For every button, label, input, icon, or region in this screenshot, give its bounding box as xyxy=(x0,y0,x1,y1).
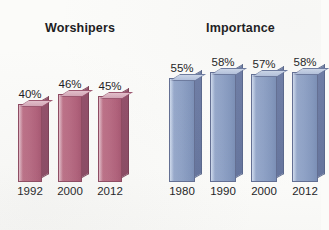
bar-value-importance-1980: 55% xyxy=(164,62,200,74)
bar-importance-2012 xyxy=(292,72,318,182)
chart-panel-worshipers: Worshipers 40% 1992 46% 2000 xyxy=(0,0,160,230)
bar-worshipers-2012 xyxy=(98,96,122,182)
chart-panel-importance: Importance 55% 1980 58% 1990 xyxy=(160,0,321,230)
bar-label-importance-2012: 2012 xyxy=(286,185,324,197)
bar-front-face xyxy=(58,94,82,182)
plot-area-importance: 55% 1980 58% 1990 57% 2000 xyxy=(160,0,321,230)
bar-value-importance-2012: 58% xyxy=(287,56,323,68)
bar-side-face xyxy=(122,88,129,178)
bar-side-face xyxy=(195,70,202,178)
bar-label-worshipers-2000: 2000 xyxy=(51,185,89,197)
bar-side-face xyxy=(277,66,284,178)
bar-value-importance-1990: 58% xyxy=(205,56,241,68)
bar-side-face xyxy=(82,86,89,178)
bar-importance-1990 xyxy=(210,72,236,182)
bar-value-worshipers-2012: 45% xyxy=(92,80,128,92)
bar-front-face xyxy=(169,78,195,182)
plot-area-worshipers: 40% 1992 46% 2000 45% 2012 xyxy=(0,0,160,230)
bar-side-face xyxy=(318,64,325,178)
bar-worshipers-1992 xyxy=(18,104,42,182)
bar-side-face xyxy=(236,64,243,178)
bar-importance-2000 xyxy=(251,74,277,182)
bar-worshipers-2000 xyxy=(58,94,82,182)
bar-front-face xyxy=(251,74,277,182)
bar-label-worshipers-1992: 1992 xyxy=(11,185,49,197)
bar-front-face xyxy=(292,72,318,182)
bar-label-importance-1980: 1980 xyxy=(163,185,201,197)
bar-front-face xyxy=(98,96,122,182)
bar-front-face xyxy=(18,104,42,182)
bar-label-importance-1990: 1990 xyxy=(204,185,242,197)
bar-side-face xyxy=(42,96,49,178)
bar-front-face xyxy=(210,72,236,182)
bar-value-importance-2000: 57% xyxy=(246,58,282,70)
bar-value-worshipers-1992: 40% xyxy=(12,88,48,100)
bar-importance-1980 xyxy=(169,78,195,182)
bar-label-worshipers-2012: 2012 xyxy=(91,185,129,197)
bar-label-importance-2000: 2000 xyxy=(245,185,283,197)
bar-value-worshipers-2000: 46% xyxy=(52,78,88,90)
